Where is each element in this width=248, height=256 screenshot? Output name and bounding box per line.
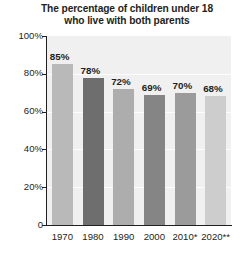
- bar[interactable]: [83, 78, 104, 225]
- y-tick-label: 0: [0, 220, 43, 230]
- bar-chart: The percentage of children under 18 who …: [0, 0, 248, 256]
- chart-title-line-2: who live with both parents: [14, 15, 240, 27]
- bars-layer: [47, 36, 231, 225]
- bar[interactable]: [144, 95, 165, 225]
- y-tick-label: 60%: [0, 106, 43, 116]
- bar[interactable]: [113, 89, 134, 225]
- bar-value-label: 72%: [111, 76, 131, 87]
- bar[interactable]: [175, 93, 196, 225]
- y-tick-label: 100%: [0, 31, 43, 41]
- x-tick-label: 2020**: [194, 231, 237, 242]
- bar[interactable]: [52, 64, 73, 225]
- x-axis-line: [46, 225, 232, 226]
- y-tick-label: 80%: [0, 68, 43, 78]
- y-tick-label: 40%: [0, 144, 43, 154]
- bar[interactable]: [205, 96, 226, 225]
- bar-value-label: 69%: [142, 82, 162, 93]
- bar-value-label: 70%: [173, 80, 193, 91]
- y-tick-label: 20%: [0, 182, 43, 192]
- bar-value-label: 78%: [81, 65, 101, 76]
- chart-title: The percentage of children under 18 who …: [14, 3, 240, 28]
- chart-title-line-1: The percentage of children under 18: [14, 3, 240, 15]
- bar-value-label: 68%: [203, 83, 223, 94]
- bar-value-label: 85%: [50, 51, 70, 62]
